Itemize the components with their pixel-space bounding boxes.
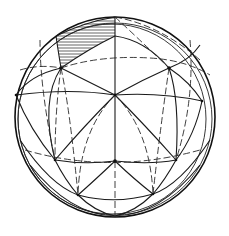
hatched-face [40,18,120,66]
diagram-canvas [0,0,229,236]
vertex-lower-right [175,159,178,162]
vertex-right [201,100,204,103]
vertex-lower-left [54,159,57,162]
vertex-lower-center [113,159,117,163]
vertex-bottom-right [152,193,155,196]
vertex-center [114,94,117,97]
vertex-left [15,94,18,97]
vertex-top-left [59,66,63,70]
geodesic-sphere-figure [0,0,229,236]
vertex-top-right [167,66,171,70]
sphere-inner-rim-2 [18,24,206,214]
vertex-bottom-left [77,194,80,197]
